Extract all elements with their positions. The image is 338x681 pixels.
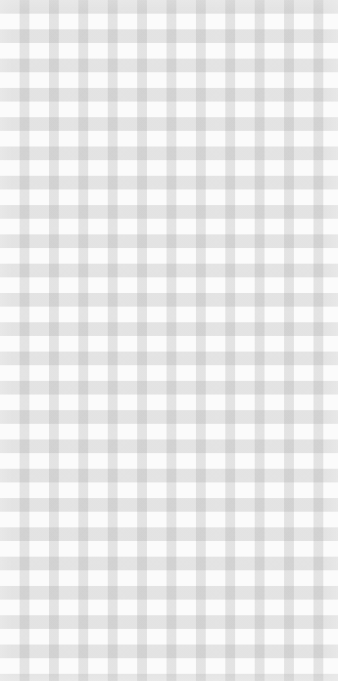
gingham-pattern-background	[0, 0, 338, 681]
